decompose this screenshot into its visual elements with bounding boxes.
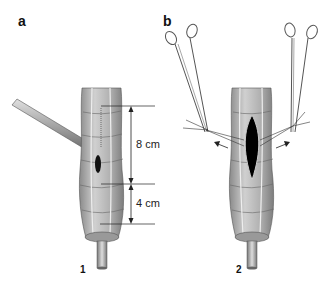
colon-segment [79,88,124,242]
panel-a-figure [12,88,155,270]
left-hemostat [163,23,208,132]
panel-label-a: a [18,13,26,29]
right-hemostat [283,22,319,132]
stapler-rod [97,241,107,270]
stapler-rod-b [247,241,257,270]
step-label-2: 2 [236,264,242,275]
small-incision [95,155,101,173]
panel-b-figure [163,22,319,270]
panel-label-b: b [163,13,172,29]
tube-instrument [12,99,90,149]
measurement-label-8cm: 8 cm [136,138,160,150]
measurement-label-4cm: 4 cm [136,197,160,209]
illustration-canvas [0,0,330,291]
step-label-1: 1 [80,264,86,275]
